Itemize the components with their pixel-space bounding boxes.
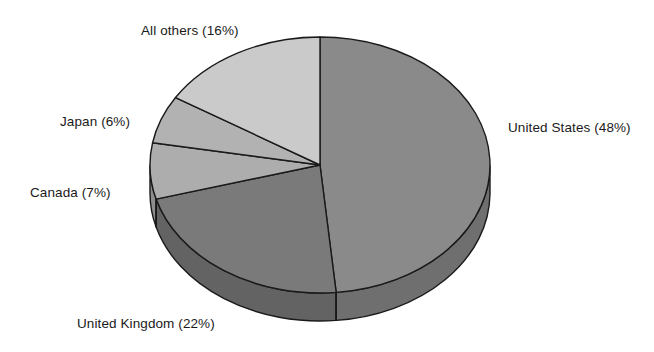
pie-chart-canvas [0,0,654,352]
pie-chart-figure: All others (16%) United States (48%) Jap… [0,0,654,352]
slice-label-all-others: All others (16%) [141,23,239,38]
slice-label-united-kingdom: United Kingdom (22%) [77,316,215,331]
slice-label-japan: Japan (6%) [60,114,130,129]
slice-label-united-states: United States (48%) [508,120,631,135]
pie-group [150,37,490,321]
slice-label-canada: Canada (7%) [30,185,111,200]
